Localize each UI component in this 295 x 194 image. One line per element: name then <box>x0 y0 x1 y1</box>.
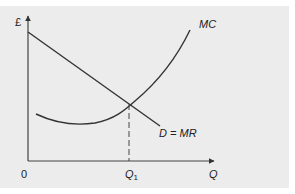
y-axis-label: £ <box>15 16 21 28</box>
x-axis-label: Q <box>209 168 218 180</box>
q1-label: Q1 <box>125 168 139 182</box>
diagram-svg: £ MC D = MR 0 Q1 Q <box>0 0 295 194</box>
demand-mr-label: D = MR <box>159 127 197 139</box>
mc-curve <box>36 30 190 124</box>
mc-label: MC <box>199 18 216 30</box>
demand-mr-line <box>28 32 160 126</box>
origin-label: 0 <box>21 168 27 180</box>
